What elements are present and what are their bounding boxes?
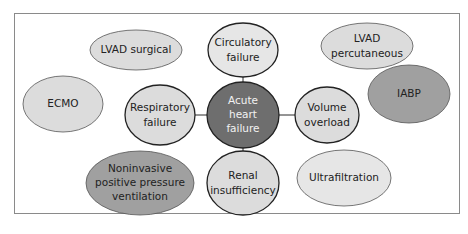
node-lvad-percutaneous: LVAD percutaneous: [321, 23, 413, 69]
node-label: ventilation: [112, 190, 168, 202]
node-label: failure: [143, 116, 176, 128]
node-ecmo: ECMO: [23, 76, 103, 132]
node-label: failure: [226, 122, 259, 134]
node-label: heart: [229, 108, 257, 120]
node-circulatory-failure: Circulatory failure: [208, 23, 278, 77]
node-label: Volume: [307, 101, 346, 113]
node-label: ECMO: [47, 97, 78, 109]
node-label: positive pressure: [95, 176, 185, 188]
node-nippv: Noninvasive positive pressure ventilatio…: [86, 151, 194, 215]
node-label: failure: [226, 51, 259, 63]
node-label: insufficiency: [210, 184, 276, 196]
node-label: percutaneous: [331, 47, 403, 59]
node-iabp: IABP: [368, 65, 450, 123]
node-acute-heart-failure: Acute heart failure: [207, 82, 279, 148]
node-label: Acute: [228, 94, 258, 106]
node-label: Circulatory: [214, 36, 271, 48]
node-lvad-surgical: LVAD surgical: [90, 30, 182, 70]
node-label: LVAD: [354, 32, 380, 44]
node-label: Ultrafiltration: [309, 171, 379, 183]
node-ultrafiltration: Ultrafiltration: [297, 150, 391, 206]
node-label: LVAD surgical: [101, 43, 172, 55]
node-label: IABP: [397, 87, 421, 99]
node-volume-overload: Volume overload: [295, 87, 359, 143]
node-label: overload: [304, 116, 350, 128]
node-label: Respiratory: [130, 101, 190, 113]
node-renal-insufficiency: Renal insufficiency: [207, 151, 279, 215]
concept-diagram: LVAD surgical Circulatory failure LVAD p…: [0, 0, 468, 234]
node-label: Noninvasive: [108, 162, 172, 174]
node-label: Renal: [228, 169, 257, 181]
node-respiratory-failure: Respiratory failure: [125, 85, 195, 145]
